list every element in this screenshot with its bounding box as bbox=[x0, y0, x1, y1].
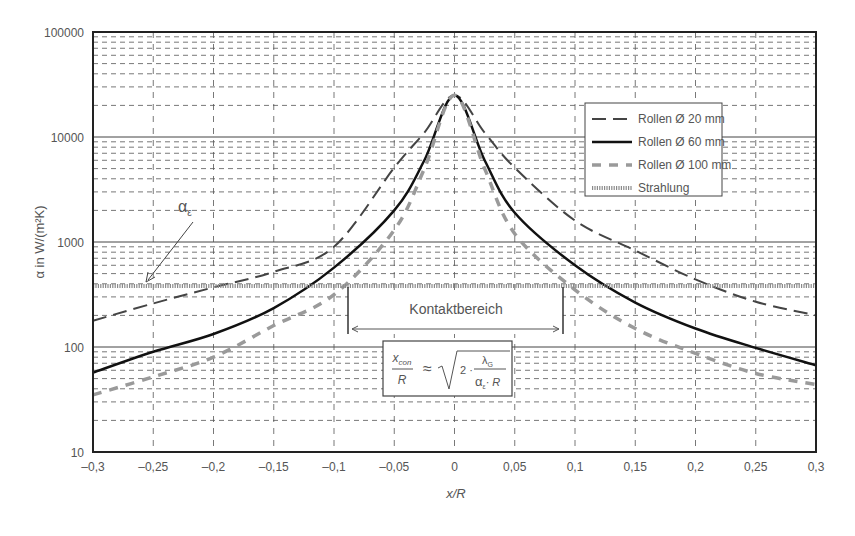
y-tick-label: 10000 bbox=[51, 131, 85, 145]
arrow-icon bbox=[148, 222, 193, 280]
x-tick-label: 0,1 bbox=[567, 460, 584, 474]
legend-label: Rollen Ø 60 mm bbox=[638, 135, 725, 149]
x-tick-label: –0,1 bbox=[322, 460, 346, 474]
y-axis-ticks: 10100100010000100000 bbox=[44, 26, 84, 460]
x-tick-label: 0,2 bbox=[687, 460, 704, 474]
x-tick-label: –0,15 bbox=[259, 460, 289, 474]
svg-text:αε· R: αε· R bbox=[475, 374, 500, 390]
x-tick-label: –0,05 bbox=[379, 460, 409, 474]
x-axis-ticks: –0,3–0,25–0,2–0,15–0,1–0,0500,050,10,150… bbox=[81, 460, 824, 474]
x-tick-label: 0 bbox=[451, 460, 458, 474]
legend-label: Rollen Ø 100 mm bbox=[638, 158, 731, 172]
x-tick-label: –0,3 bbox=[81, 460, 105, 474]
legend: Rollen Ø 20 mmRollen Ø 60 mmRollen Ø 100… bbox=[585, 103, 731, 196]
legend-label: Strahlung bbox=[638, 181, 689, 195]
x-tick-label: 0,25 bbox=[744, 460, 768, 474]
x-axis-label: x/R bbox=[445, 486, 466, 501]
svg-text:≈: ≈ bbox=[423, 360, 432, 377]
svg-text:R: R bbox=[398, 373, 407, 387]
y-tick-label: 100 bbox=[64, 341, 84, 355]
formula-box: xcon R ≈ 2 · λG αε· R bbox=[383, 341, 512, 396]
y-tick-label: 1000 bbox=[57, 236, 84, 250]
legend-label: Rollen Ø 20 mm bbox=[638, 112, 725, 126]
x-tick-label: 0,15 bbox=[624, 460, 648, 474]
x-tick-label: –0,25 bbox=[138, 460, 168, 474]
chart: –0,3–0,25–0,2–0,15–0,1–0,0500,050,10,150… bbox=[0, 0, 855, 536]
svg-text:Kontaktbereich: Kontaktbereich bbox=[409, 301, 502, 317]
svg-text:2 ·: 2 · bbox=[460, 364, 473, 376]
contact-region: Kontaktbereich bbox=[348, 287, 563, 334]
y-tick-label: 100000 bbox=[44, 26, 84, 40]
x-tick-label: 0,05 bbox=[503, 460, 527, 474]
y-tick-label: 10 bbox=[71, 446, 85, 460]
svg-text:αε: αε bbox=[178, 198, 192, 218]
x-tick-label: –0,2 bbox=[202, 460, 226, 474]
x-tick-label: 0,3 bbox=[808, 460, 825, 474]
y-axis-label: α in W/(m²K) bbox=[32, 205, 47, 278]
